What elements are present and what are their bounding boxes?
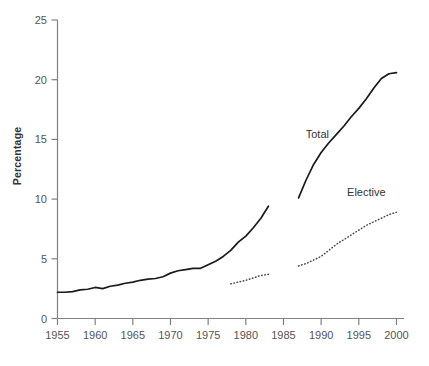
series-label-total: Total bbox=[306, 128, 329, 140]
chart-plot-area: 0510152025 19551960196519701975198019851… bbox=[0, 0, 429, 366]
x-tick-label: 1995 bbox=[347, 329, 371, 341]
series-label-elective: Elective bbox=[347, 186, 386, 198]
y-tick-group: 0510152025 bbox=[35, 14, 58, 325]
x-tick-label: 1980 bbox=[234, 329, 258, 341]
y-tick-label: 15 bbox=[35, 133, 47, 145]
chart-container: Percentage 0510152025 195519601965197019… bbox=[0, 0, 429, 366]
x-tick-label: 1960 bbox=[83, 329, 107, 341]
x-tick-label: 1955 bbox=[45, 329, 69, 341]
x-tick-group: 1955196019651970197519801985199019952000 bbox=[45, 319, 408, 342]
x-tick-label: 1985 bbox=[271, 329, 295, 341]
y-tick-label: 25 bbox=[35, 14, 47, 26]
series-line-total bbox=[58, 206, 269, 292]
y-tick-label: 5 bbox=[41, 253, 47, 265]
y-tick-label: 0 bbox=[41, 313, 47, 325]
data-series-group bbox=[58, 73, 397, 293]
x-tick-label: 2000 bbox=[384, 329, 408, 341]
y-axis: 0510152025 bbox=[35, 14, 58, 325]
series-line-elective bbox=[299, 212, 397, 266]
x-tick-label: 1990 bbox=[309, 329, 333, 341]
x-tick-label: 1975 bbox=[196, 329, 220, 341]
y-tick-label: 10 bbox=[35, 193, 47, 205]
series-line-elective bbox=[231, 274, 269, 284]
x-tick-label: 1965 bbox=[121, 329, 145, 341]
y-tick-label: 20 bbox=[35, 74, 47, 86]
x-axis: 1955196019651970197519801985199019952000 bbox=[45, 319, 408, 342]
x-tick-label: 1970 bbox=[158, 329, 182, 341]
series-annotation-group: TotalElective bbox=[306, 128, 386, 197]
